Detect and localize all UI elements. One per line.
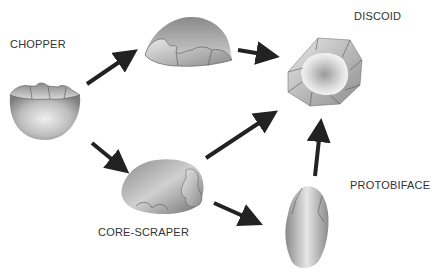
discoid-stone: [288, 38, 362, 106]
arrow-chopper-to-core-scraper: [92, 143, 120, 166]
arrow-core-scraper-to-protobiface: [214, 203, 252, 220]
label-discoid: DISCOID: [354, 10, 401, 22]
arrow-intermediate-to-discoid: [238, 50, 268, 55]
intermediate-stone: [145, 17, 232, 66]
arrow-protobiface-to-discoid: [315, 130, 320, 176]
protobiface-stone: [285, 186, 328, 268]
stone-tool-diagram: CHOPPER DISCOID CORE-SCRAPER PROTOBIFACE: [0, 0, 448, 279]
chopper-stone: [10, 83, 80, 140]
arrow-chopper-to-intermediate: [87, 56, 128, 84]
label-protobiface: PROTOBIFACE: [350, 179, 430, 191]
label-chopper: CHOPPER: [10, 38, 66, 50]
core-scraper-stone: [121, 159, 203, 214]
arrow-core-scraper-to-discoid: [206, 117, 268, 158]
label-core-scraper: CORE-SCRAPER: [98, 226, 189, 238]
diagram-canvas: [0, 0, 448, 279]
